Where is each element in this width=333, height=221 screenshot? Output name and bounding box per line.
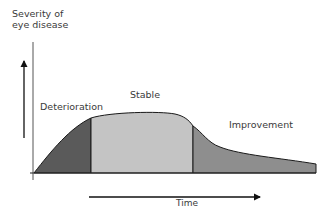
phase-label-improvement: Improvement	[229, 119, 293, 130]
deterioration-region	[34, 118, 91, 173]
y-axis-label-line1: Severity of	[12, 8, 68, 19]
improvement-region	[193, 126, 316, 173]
y-axis-label: Severity of eye disease	[12, 8, 68, 30]
phase-label-stable: Stable	[130, 89, 160, 100]
stable-region	[91, 112, 193, 173]
y-axis-label-line2: eye disease	[12, 19, 68, 30]
x-axis-label: Time	[176, 198, 198, 209]
phase-label-deterioration: Deterioration	[40, 101, 103, 112]
